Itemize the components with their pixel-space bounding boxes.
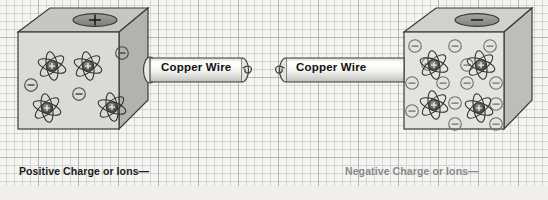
copper-wire-left-label: Copper Wire: [161, 61, 231, 73]
right-caption-line-1: Negative Charge or Ions—: [345, 165, 501, 178]
diagram-scene: Copper Wire Copper Wire Positive Charge …: [0, 0, 548, 200]
negative-charged-block: [404, 8, 532, 130]
positive-charged-block: [18, 8, 148, 129]
right-block-caption: Negative Charge or Ions— More Electrons …: [345, 139, 501, 200]
left-block-polarity-badge: [73, 14, 117, 27]
left-block-front-face: [18, 32, 119, 129]
left-caption-line-1: Positive Charge or Ions—: [19, 165, 165, 178]
copper-wire-right-label: Copper Wire: [296, 61, 366, 73]
right-block-polarity-badge: [455, 14, 499, 27]
left-block-caption: Positive Charge or Ions— More Protons th…: [19, 139, 165, 200]
